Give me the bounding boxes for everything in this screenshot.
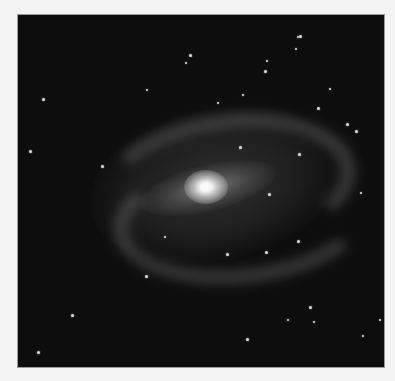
star — [346, 123, 349, 126]
star — [313, 321, 315, 323]
star — [42, 98, 45, 101]
star — [355, 130, 358, 133]
star — [297, 36, 299, 38]
galaxy-core — [184, 170, 228, 204]
star — [268, 193, 271, 196]
star — [71, 314, 74, 317]
star — [295, 48, 297, 50]
star — [164, 236, 166, 238]
star — [329, 88, 331, 90]
star — [146, 89, 148, 91]
star — [185, 62, 187, 64]
star — [226, 253, 229, 256]
star — [217, 102, 219, 104]
star — [264, 70, 267, 73]
star — [266, 60, 268, 62]
star — [239, 146, 242, 149]
star — [189, 54, 192, 57]
star — [246, 338, 249, 341]
star — [287, 319, 289, 321]
star — [362, 335, 364, 337]
star — [242, 94, 244, 96]
star — [379, 319, 381, 321]
star — [298, 153, 301, 156]
star — [101, 165, 104, 168]
star — [265, 251, 268, 254]
star — [317, 107, 320, 110]
star — [29, 150, 32, 153]
star — [145, 275, 148, 278]
star — [360, 192, 362, 194]
galaxy-image — [17, 14, 385, 368]
star — [309, 306, 312, 309]
star — [297, 240, 300, 243]
star — [37, 351, 40, 354]
